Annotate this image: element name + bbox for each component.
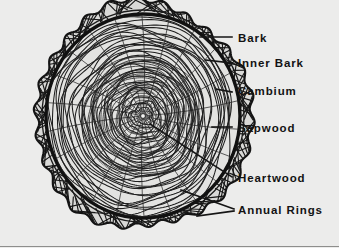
- label-sapwood: Sapwood: [238, 122, 295, 134]
- label-heartwood: Heartwood: [238, 172, 306, 184]
- tree-cross-section-figure: BarkInner BarkCambiumSapwoodHeartwoodAnn…: [0, 0, 339, 248]
- label-bark: Bark: [238, 32, 267, 44]
- diagram-canvas: BarkInner BarkCambiumSapwoodHeartwoodAnn…: [0, 0, 339, 248]
- pith-center: [141, 114, 146, 119]
- label-cambium: Cambium: [238, 85, 297, 97]
- label-annual-rings: Annual Rings: [238, 204, 323, 216]
- label-inner-bark: Inner Bark: [238, 57, 304, 69]
